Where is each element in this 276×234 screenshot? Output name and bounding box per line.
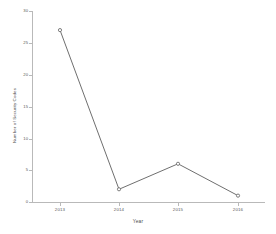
y-tick-label-5: 5	[0, 168, 28, 172]
y-tick-mark-30	[29, 11, 32, 12]
x-tick-mark-2015	[178, 203, 179, 206]
series-line-security-codes	[60, 30, 238, 196]
series-markers	[58, 29, 239, 198]
x-tick-label-2015: 2015	[158, 208, 198, 212]
x-tick-label-2014: 2014	[99, 208, 139, 212]
data-point-2013	[58, 29, 61, 32]
x-tick-label-2013: 2013	[40, 208, 80, 212]
y-tick-mark-20	[29, 75, 32, 76]
x-tick-mark-2016	[238, 203, 239, 206]
y-tick-label-30: 30	[0, 9, 28, 13]
data-point-2015	[176, 162, 179, 165]
data-point-2014	[117, 188, 120, 191]
y-tick-mark-10	[29, 139, 32, 140]
data-point-2016	[236, 194, 239, 197]
x-tick-mark-2014	[119, 203, 120, 206]
x-axis-line	[32, 202, 265, 203]
y-tick-label-0: 0	[0, 200, 28, 204]
y-axis-title: Number of Security Codes	[12, 66, 17, 166]
x-axis-title: Year	[0, 219, 276, 224]
x-tick-mark-2013	[60, 203, 61, 206]
y-tick-mark-5	[29, 170, 32, 171]
y-tick-mark-25	[29, 43, 32, 44]
y-tick-label-25: 25	[0, 41, 28, 45]
x-tick-label-2016: 2016	[218, 208, 258, 212]
y-axis-line	[32, 11, 33, 202]
y-tick-mark-15	[29, 107, 32, 108]
line-chart: 30 25 20 15 10 5 0 2013 2014 2015 2016 Y…	[0, 0, 276, 234]
series-layer	[0, 0, 276, 234]
y-tick-mark-0	[29, 202, 32, 203]
